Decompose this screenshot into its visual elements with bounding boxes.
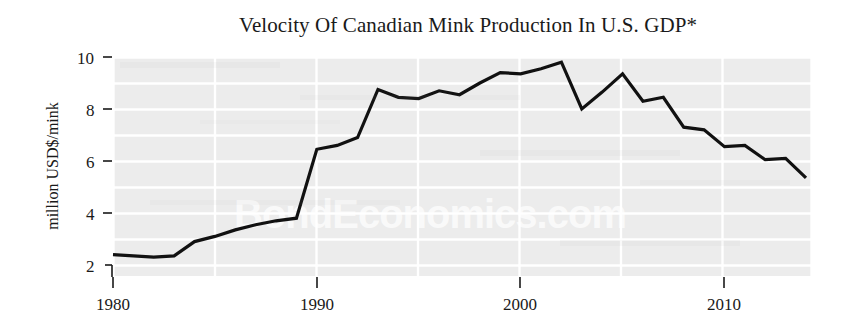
y-tick-label-10: 10 bbox=[77, 49, 94, 68]
chart-title: Velocity Of Canadian Mink Production In … bbox=[239, 13, 697, 37]
y-tick-label-8: 8 bbox=[86, 101, 95, 120]
y-tick-label-2: 2 bbox=[86, 257, 95, 276]
x-tick-label-2000: 2000 bbox=[503, 295, 537, 314]
y-axis-label: million USD$/mink bbox=[44, 102, 61, 230]
chart-figure: Velocity Of Canadian Mink Production In … bbox=[0, 0, 859, 326]
watermark: BondEconomics.com bbox=[234, 192, 626, 236]
y-tick-label-6: 6 bbox=[86, 153, 95, 172]
line-chart: Velocity Of Canadian Mink Production In … bbox=[0, 0, 859, 326]
x-tick-label-1980: 1980 bbox=[96, 295, 130, 314]
x-tick-label-1990: 1990 bbox=[300, 295, 334, 314]
y-tick-label-4: 4 bbox=[86, 205, 95, 224]
x-tick-label-2010: 2010 bbox=[707, 295, 741, 314]
